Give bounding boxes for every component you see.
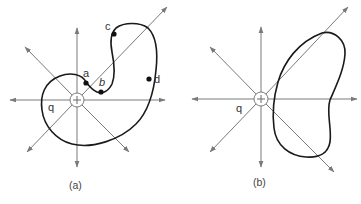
charge-a <box>70 93 84 107</box>
field-line-up-left <box>25 47 72 95</box>
caption-b: (b) <box>253 176 266 188</box>
charge-b <box>254 92 268 106</box>
point-c <box>111 31 116 36</box>
gaussian-surface-b <box>273 32 345 157</box>
field-line-up-left <box>210 47 256 94</box>
point-d <box>146 76 151 81</box>
label-a: a <box>83 67 90 79</box>
charge-label-a: q <box>48 101 54 113</box>
field-lines-a <box>10 7 167 167</box>
label-b: b <box>99 76 105 88</box>
label-c: c <box>105 20 111 32</box>
panel-b: q (b) <box>192 7 357 188</box>
caption-a: (a) <box>69 179 82 191</box>
figure: a b c d q (a) q (b) <box>0 0 361 204</box>
charge-label-b: q <box>236 102 242 114</box>
field-line-down-left <box>210 104 256 152</box>
field-lines-b <box>192 7 357 172</box>
point-b <box>98 89 103 94</box>
surface-points-a <box>83 31 151 94</box>
label-d: d <box>154 73 160 85</box>
point-a <box>83 80 88 85</box>
panel-a: a b c d q (a) <box>10 7 167 191</box>
